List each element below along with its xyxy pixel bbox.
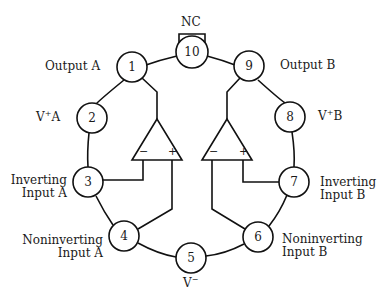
ring-arc	[269, 195, 287, 226]
ring-arc	[138, 243, 176, 257]
pin-1-number: 1	[117, 60, 147, 74]
opamp-a-minus-sign: −	[139, 145, 148, 158]
opamp-b-minus-sign: −	[209, 145, 218, 158]
v-plus-b-label: V+B	[318, 110, 342, 123]
noninverting-input-a-label: NoninvertingInput A	[0, 234, 103, 260]
pin-3-number: 3	[73, 175, 103, 189]
opamp-a-output-wire	[142, 78, 157, 119]
opamp-a-plus-sign: +	[168, 145, 177, 158]
opamp-b-minus-wire	[212, 160, 245, 229]
inverting-input-b-label: InvertingInput B	[320, 176, 376, 202]
output-a-label: Output A	[45, 60, 100, 73]
inverting-input-a-label: InvertingInput A	[0, 174, 67, 200]
pin-7-number: 7	[279, 175, 309, 189]
ring-arc	[88, 133, 89, 167]
ring-arc	[206, 244, 244, 256]
v-minus-label: V−	[183, 277, 198, 290]
nc-label: NC	[181, 16, 201, 29]
opamp-b-plus-sign: +	[239, 145, 248, 158]
opamp-b-plus-wire	[243, 160, 279, 182]
ring-arc	[258, 80, 285, 103]
pin-2-number: 2	[77, 111, 107, 125]
pin-4-number: 4	[109, 229, 139, 243]
ring-arc	[96, 80, 124, 104]
opamp-a-minus-wire	[103, 160, 143, 180]
noninverting-input-b-label: NoninvertingInput B	[282, 233, 363, 259]
ring-arc	[96, 196, 113, 225]
pin-9-number: 9	[234, 59, 264, 73]
pin-10-number: 10	[177, 45, 207, 59]
pin-8-number: 8	[275, 110, 305, 124]
pin-5-number: 5	[176, 251, 206, 265]
output-b-label: Output B	[280, 59, 335, 72]
v-plus-a-label: V+A	[36, 111, 60, 124]
pin-6-number: 6	[243, 230, 273, 244]
ring-arc	[292, 132, 294, 167]
opamp-b-output-wire	[227, 78, 240, 119]
ring-arc	[207, 56, 235, 65]
ring-arc	[146, 56, 177, 65]
